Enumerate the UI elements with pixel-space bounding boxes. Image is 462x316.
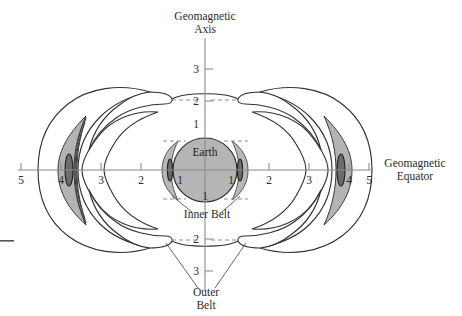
scan-artifact-mark [0, 240, 14, 242]
ticklabel-x-minus4: 4 [58, 174, 64, 186]
ticklabel-y-minus2: 2 [193, 233, 199, 245]
inner-belt-label: Inner Belt [184, 208, 231, 220]
vertical-axis-title-line2: Axis [194, 23, 216, 35]
ticklabel-x-minus2: 2 [138, 174, 144, 186]
outer-belt-leader-right [215, 243, 246, 288]
ticklabel-x-plus1: 1 [228, 174, 234, 186]
ticklabel-x-minus1: 1 [177, 174, 183, 186]
outer-belt-label-line1: Outer [193, 286, 219, 298]
ticklabel-x-minus5: 5 [18, 174, 24, 186]
ticklabel-y-plus1: 1 [193, 118, 199, 130]
ticklabel-x-minus3: 3 [98, 174, 104, 186]
outer-belt-label-line2: Belt [196, 299, 216, 311]
horizontal-axis-title-line2: Equator [397, 170, 434, 183]
radiation-belt-diagram: 5 4 3 2 1 1 2 3 4 5 3 2 1 1 2 3 Geomagne… [0, 0, 462, 316]
vertical-axis-title-line1: Geomagnetic [174, 10, 235, 23]
horizontal-axis-title-line1: Geomagnetic [384, 157, 445, 170]
ticklabel-x-plus5: 5 [366, 174, 372, 186]
earth-label: Earth [193, 146, 218, 158]
ticklabel-y-plus2: 2 [193, 95, 199, 107]
ticklabel-y-minus1: 1 [202, 190, 208, 202]
ticklabel-y-plus3: 3 [193, 63, 199, 75]
ticklabel-x-plus2: 2 [266, 174, 272, 186]
ticklabel-x-plus4: 4 [346, 174, 352, 186]
ticklabel-x-plus3: 3 [306, 174, 312, 186]
ticklabel-y-minus3: 3 [193, 265, 199, 277]
